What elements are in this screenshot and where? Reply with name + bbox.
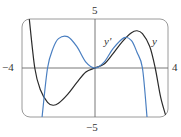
yprime-curve-label: y' bbox=[104, 36, 111, 47]
y-min-label: −5 bbox=[86, 122, 98, 133]
yprime-curve bbox=[42, 36, 147, 117]
y-max-label: 5 bbox=[92, 5, 98, 16]
x-max-label: 4 bbox=[172, 62, 178, 73]
function-plot bbox=[0, 0, 181, 137]
x-min-label: −4 bbox=[2, 62, 14, 73]
y-curve-label: y bbox=[152, 36, 157, 47]
